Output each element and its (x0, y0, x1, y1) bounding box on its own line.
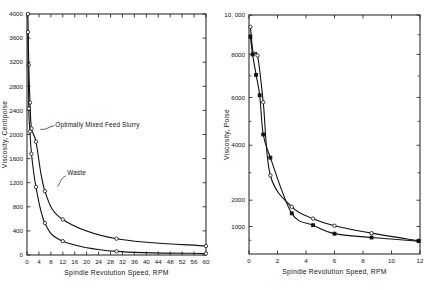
data-point-marker (34, 185, 37, 188)
data-point-marker (290, 205, 293, 208)
plot-frame (249, 15, 420, 254)
data-point-marker (26, 30, 29, 33)
data-point-marker (333, 232, 336, 235)
data-point-marker (312, 224, 315, 227)
data-curve (28, 32, 206, 253)
y-tick-label: 4000 (231, 141, 245, 148)
data-point-marker (27, 107, 30, 110)
figure-page: 0481216202428323640444852566004008001200… (0, 0, 430, 290)
x-tick-label: 2 (276, 257, 280, 264)
data-point-marker (43, 221, 46, 224)
y-tick-label: 1200 (9, 179, 23, 186)
data-point-marker (269, 156, 272, 159)
data-point-marker (115, 250, 118, 253)
y-tick-label: 1600 (9, 155, 23, 162)
data-point-marker (370, 236, 373, 239)
data-point-marker (256, 54, 259, 57)
data-curve (250, 27, 418, 241)
annotation-leader (40, 126, 54, 130)
x-tick-label: 0 (25, 258, 29, 265)
x-tick-label: 40 (143, 258, 150, 265)
data-point-marker (61, 218, 64, 221)
data-point-marker (26, 12, 29, 15)
x-tick-label: 0 (247, 257, 251, 264)
chart-right-svg: 0246810121000200040006000800010, 000Spin… (215, 0, 430, 290)
data-curve (250, 37, 418, 241)
data-point-marker (269, 174, 272, 177)
y-axis-title: Viscosity, Poise (223, 109, 231, 160)
x-tick-label: 44 (155, 258, 162, 265)
data-point-marker (255, 73, 258, 76)
data-point-marker (258, 94, 261, 97)
x-tick-label: 6 (333, 257, 337, 264)
data-curve (28, 14, 206, 246)
x-tick-label: 12 (417, 257, 424, 264)
y-tick-label: 3200 (9, 58, 23, 65)
data-point-marker (204, 252, 207, 255)
data-point-marker (30, 152, 33, 155)
x-tick-label: 8 (361, 257, 365, 264)
x-tick-label: 52 (179, 258, 186, 265)
x-tick-label: 60 (203, 258, 210, 265)
x-tick-label: 4 (304, 257, 308, 264)
data-point-marker (417, 240, 420, 243)
x-tick-label: 8 (49, 258, 53, 265)
data-point-marker (262, 133, 265, 136)
x-tick-label: 32 (119, 258, 126, 265)
data-point-marker (290, 212, 293, 215)
data-point-marker (251, 53, 254, 56)
data-point-marker (333, 224, 336, 227)
x-tick-label: 4 (37, 258, 41, 265)
y-tick-label: 4000 (9, 10, 23, 17)
y-tick-label: 800 (13, 203, 24, 210)
y-axis-title: Viscosity, Centipoise (1, 101, 9, 168)
data-point-marker (311, 217, 314, 220)
x-tick-label: 48 (167, 258, 174, 265)
x-tick-label: 20 (83, 258, 90, 265)
x-tick-label: 36 (131, 258, 138, 265)
data-point-marker (28, 130, 31, 133)
data-point-marker (262, 101, 265, 104)
x-axis-title: Spindle Revolution Speed, RPM (282, 268, 386, 276)
data-point-marker (370, 231, 373, 234)
data-point-marker (249, 35, 252, 38)
plot-frame (27, 14, 206, 255)
y-tick-label: 10, 000 (224, 11, 245, 18)
y-tick-label: 400 (13, 227, 24, 234)
y-tick-label: 8000 (231, 51, 245, 58)
y-tick-label: 0 (20, 251, 24, 258)
y-tick-label: 2000 (9, 131, 23, 138)
chart-left: 0481216202428323640444852566004008001200… (0, 0, 215, 290)
x-tick-label: 24 (95, 258, 102, 265)
x-tick-label: 56 (191, 258, 198, 265)
x-tick-label: 10 (388, 257, 395, 264)
x-tick-label: 12 (59, 258, 66, 265)
data-point-marker (34, 140, 37, 143)
x-axis-title: Spindle Revolution Speed, RPM (64, 269, 168, 277)
y-tick-label: 2000 (231, 196, 245, 203)
chart-left-svg: 0481216202428323640444852566004008001200… (0, 0, 215, 290)
chart-right: 0246810121000200040006000800010, 000Spin… (215, 0, 430, 290)
data-point-marker (204, 244, 207, 247)
y-tick-label: 3600 (9, 34, 23, 41)
annotation-leader (58, 176, 66, 187)
data-point-marker (43, 189, 46, 192)
data-point-marker (61, 239, 64, 242)
y-tick-label: 6000 (231, 94, 245, 101)
y-tick-label: 2400 (9, 107, 23, 114)
curve-annotation: Optimally Mixed Feed Slurry (55, 121, 140, 129)
data-point-marker (115, 237, 118, 240)
x-tick-label: 16 (71, 258, 78, 265)
data-point-marker (249, 25, 252, 28)
x-tick-label: 28 (107, 258, 114, 265)
y-tick-label: 1000 (231, 223, 245, 230)
y-tick-label: 2800 (9, 83, 23, 90)
curve-annotation: Waste (67, 169, 86, 176)
